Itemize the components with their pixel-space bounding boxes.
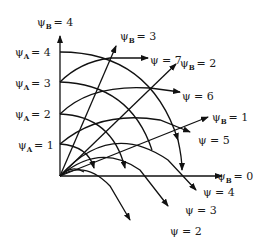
- label-psiB-4: ψB= 4: [37, 16, 73, 31]
- label-psiB-2: ψB= 2: [180, 57, 216, 72]
- label-psiA-1: ψA= 1: [18, 139, 54, 154]
- label-psi-5: ψ = 5: [198, 134, 230, 147]
- label-psi-3: ψ = 3: [185, 204, 217, 217]
- label-psiA-2: ψA= 2: [15, 108, 51, 123]
- label-psiB-0: ψB= 0: [217, 170, 253, 185]
- flow-net-diagram: ψB= 4 ψB= 3 ψB= 2 ψB= 1 ψB= 0 ψA= 4 ψA= …: [0, 0, 263, 251]
- label-psi-4: ψ = 4: [203, 186, 235, 199]
- label-psiB-1: ψB= 1: [212, 111, 248, 126]
- label-psiA-3: ψA= 3: [15, 77, 51, 92]
- psi-curves: [60, 58, 196, 220]
- label-psi-7: ψ = 7: [150, 54, 182, 67]
- label-psiA-4: ψA= 4: [15, 46, 51, 61]
- label-psi-2: ψ = 2: [170, 225, 202, 238]
- diagram-canvas: ψB= 4 ψB= 3 ψB= 2 ψB= 1 ψB= 0 ψA= 4 ψA= …: [0, 0, 263, 251]
- label-psiB-3: ψB= 3: [120, 30, 156, 45]
- label-psi-6: ψ = 6: [182, 90, 214, 103]
